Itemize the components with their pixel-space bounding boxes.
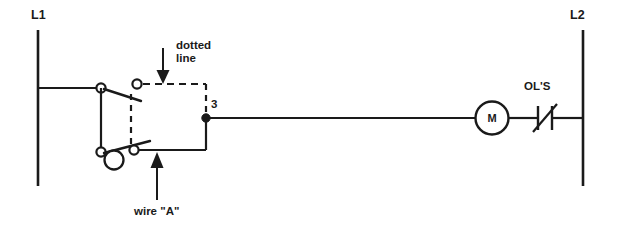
wire-a-annotation-label: wire "A": [134, 205, 179, 218]
ladder-diagram: L1 L2 dotted line 3 OL'S wire "A" M: [0, 0, 617, 229]
ladder-diagram-canvas: [0, 0, 617, 229]
right-rail-label: L2: [570, 8, 585, 22]
dotted-line-arrowhead-icon: [157, 70, 170, 84]
motor-label: M: [478, 112, 506, 124]
upper-contact-blade: [104, 89, 141, 101]
overload-label: OL'S: [524, 80, 550, 93]
left-rail-label: L1: [31, 8, 46, 22]
wire-a-arrowhead-icon: [151, 152, 164, 168]
upper-right-contact-terminal: [132, 79, 141, 88]
junction-node-label: 3: [211, 98, 217, 111]
dotted-line-annotation-label: dotted line: [176, 39, 211, 65]
lower-right-contact-terminal: [129, 145, 138, 154]
lower-contact-pivot-circle: [105, 151, 124, 170]
